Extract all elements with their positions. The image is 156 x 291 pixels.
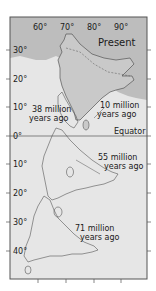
label-38mya-line2: years ago [29, 114, 69, 123]
label-71mya-line2: years ago [80, 233, 120, 242]
lat-label-10s: 10° [13, 160, 27, 169]
label-10mya-line2: years ago [97, 110, 137, 119]
lat-label-20s: 20° [13, 189, 27, 198]
lat-label-20n: 20° [13, 75, 27, 84]
india-drift-map: 60° 70° 80° 90° 30° 20° 10° 0° 10° 20° 3… [0, 0, 156, 291]
label-55mya-line2: years ago [104, 162, 144, 171]
label-38mya-line1: 38 million [32, 105, 71, 114]
lat-label-10n: 10° [13, 103, 27, 112]
label-71mya-line1: 71 million [75, 224, 114, 233]
label-55mya-line1: 55 million [98, 153, 137, 162]
lon-label-70: 70° [60, 23, 74, 32]
lon-label-60: 60° [33, 23, 47, 32]
lat-label-40s: 40° [13, 247, 27, 256]
label-10mya-line1: 10 million [100, 101, 139, 110]
equator-label: Equator [114, 127, 146, 136]
sri-lanka-present [83, 120, 89, 130]
lat-label-30s: 30° [13, 218, 27, 227]
map-title: Present [98, 37, 136, 48]
lat-label-30n: 30° [13, 46, 27, 55]
lon-label-80: 80° [87, 23, 101, 32]
lat-label-0: 0° [13, 132, 22, 141]
lon-label-90: 90° [114, 23, 128, 32]
